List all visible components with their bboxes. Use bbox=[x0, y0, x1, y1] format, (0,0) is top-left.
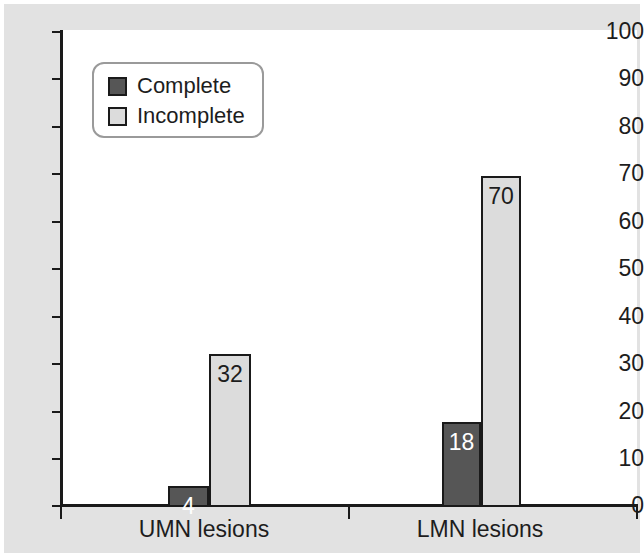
bar-chart-figure: 100 90 80 70 60 50 40 30 20 10 0 UMN les… bbox=[0, 0, 644, 557]
y-axis-tick bbox=[52, 126, 63, 128]
y-axis-tick-label: 20 bbox=[600, 400, 644, 423]
y-axis-tick-label: 50 bbox=[600, 257, 644, 280]
bar-complete-lmn: 18 bbox=[442, 422, 481, 507]
y-axis-tick bbox=[52, 221, 63, 223]
legend-label-incomplete: Incomplete bbox=[137, 105, 245, 127]
bar-value-label: 70 bbox=[483, 185, 519, 208]
legend-swatch-icon-complete bbox=[108, 77, 127, 96]
legend-label-complete: Complete bbox=[137, 75, 231, 97]
y-axis-tick-label: 40 bbox=[600, 305, 644, 328]
bar-complete-umn: 4 bbox=[168, 486, 209, 507]
x-axis-category-label-lmn: LMN lesions bbox=[400, 518, 560, 541]
y-axis-tick-label: 100 bbox=[600, 20, 644, 43]
y-axis-tick bbox=[52, 316, 63, 318]
y-axis-tick-label: 10 bbox=[600, 447, 644, 470]
y-axis-tick bbox=[52, 268, 63, 270]
x-axis-tick bbox=[636, 506, 638, 519]
y-axis-tick-label: 30 bbox=[600, 352, 644, 375]
y-axis-tick-label: 70 bbox=[600, 162, 644, 185]
bar-incomplete-umn: 32 bbox=[209, 354, 251, 507]
bar-value-label: 4 bbox=[170, 495, 207, 518]
y-axis-tick-label: 60 bbox=[600, 210, 644, 233]
legend-swatch-icon-incomplete bbox=[108, 107, 127, 126]
chart-legend: Complete Incomplete bbox=[92, 62, 264, 138]
y-axis-tick bbox=[52, 363, 63, 365]
y-axis-tick bbox=[52, 411, 63, 413]
legend-item-complete: Complete bbox=[108, 71, 262, 101]
x-axis-category-label-umn: UMN lesions bbox=[124, 518, 284, 541]
y-axis-tick-label: 90 bbox=[600, 67, 644, 90]
y-axis-tick bbox=[52, 458, 63, 460]
y-axis-tick-label: 80 bbox=[600, 115, 644, 138]
x-axis-tick bbox=[348, 506, 350, 519]
y-axis-tick bbox=[52, 78, 63, 80]
bar-value-label: 32 bbox=[211, 363, 249, 386]
bar-value-label: 18 bbox=[444, 431, 479, 454]
x-axis-tick bbox=[60, 506, 62, 519]
bar-incomplete-lmn: 70 bbox=[481, 176, 521, 507]
y-axis-tick bbox=[52, 31, 63, 33]
legend-item-incomplete: Incomplete bbox=[108, 101, 262, 131]
y-axis-tick bbox=[52, 173, 63, 175]
